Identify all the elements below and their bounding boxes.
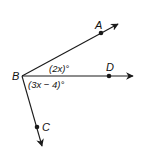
point-c <box>35 125 40 130</box>
label-d: D <box>106 61 114 73</box>
point-d <box>107 74 112 79</box>
angle-diagram: A B D C (2x)° (3x − 4)° <box>0 0 142 154</box>
label-b: B <box>12 70 19 82</box>
label-a: A <box>94 19 102 31</box>
label-c: C <box>42 121 50 133</box>
ray-ba <box>22 24 118 76</box>
point-a <box>99 31 104 36</box>
angle-label-dbc: (3x − 4)° <box>28 79 64 90</box>
angle-label-abd: (2x)° <box>49 63 69 74</box>
